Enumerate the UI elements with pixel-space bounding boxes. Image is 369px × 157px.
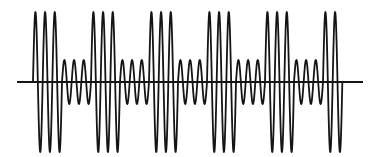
waveform-canvas [0,0,369,157]
waveform-diagram: Amplitude-shift keyed sinusoidal carrier… [0,0,369,157]
